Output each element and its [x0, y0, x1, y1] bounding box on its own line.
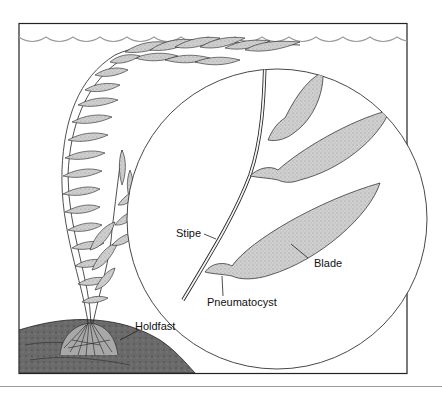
label-holdfast: Holdfast: [135, 320, 175, 332]
label-blade: Blade: [314, 257, 342, 269]
label-pneumatocyst: Pneumatocyst: [207, 296, 277, 308]
kelp-diagram: Stipe Blade Pneumatocyst Holdfast: [0, 0, 442, 393]
bottom-divider: [0, 386, 442, 387]
label-stipe: Stipe: [176, 227, 201, 239]
